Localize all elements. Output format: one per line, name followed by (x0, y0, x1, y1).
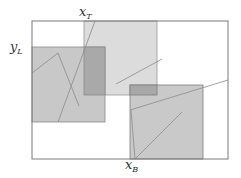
label-x-top-sub: T (86, 12, 91, 21)
top-bottom-overlap (130, 85, 157, 95)
diagram-canvas (0, 0, 241, 178)
bottom-square (130, 85, 203, 159)
label-x-bottom-sub: B (132, 165, 138, 174)
label-x-top: xT (79, 5, 92, 21)
label-x-bottom: xB (125, 158, 138, 174)
left-top-overlap (84, 47, 105, 95)
label-y-left-sub: L (17, 47, 22, 56)
label-y-left: yL (10, 40, 23, 56)
